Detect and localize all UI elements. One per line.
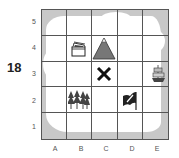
map-grid (41, 9, 169, 140)
cell-e1 (143, 113, 168, 139)
cell-c1 (92, 113, 117, 139)
cell-e3 (143, 62, 168, 88)
cell-c3 (92, 62, 117, 88)
cell-b1 (67, 113, 92, 139)
cell-b5 (67, 10, 92, 36)
cell-b3 (67, 62, 92, 88)
row-label-5: 5 (31, 18, 37, 25)
col-label-d: D (127, 145, 137, 152)
row-label-1: 1 (31, 123, 37, 130)
col-label-c: C (101, 145, 111, 152)
cell-e4 (143, 36, 168, 62)
mountain-icon (92, 36, 116, 60)
cell-d4 (118, 36, 143, 62)
row-label-4: 4 (31, 44, 37, 51)
treasure-chest-icon (70, 40, 88, 57)
cell-c2 (92, 87, 117, 113)
row-label-3: 3 (31, 70, 37, 77)
cell-a2 (42, 87, 67, 113)
cell-a4 (42, 36, 67, 62)
cell-b2 (67, 87, 92, 113)
cell-d5 (118, 10, 143, 36)
col-label-b: B (76, 145, 86, 152)
flag-icon (121, 90, 139, 110)
cell-e5 (143, 10, 168, 36)
cell-e2 (143, 87, 168, 113)
cell-a3 (42, 62, 67, 88)
cell-b4 (67, 36, 92, 62)
x-mark-icon (96, 66, 112, 82)
problem-number: 18 (7, 60, 21, 75)
cell-a1 (42, 113, 67, 139)
ship-icon (152, 64, 166, 84)
cell-d3 (118, 62, 143, 88)
cell-c5 (92, 10, 117, 36)
cell-a5 (42, 10, 67, 36)
cell-c4 (92, 36, 117, 62)
col-label-e: E (152, 145, 162, 152)
cell-d2 (118, 87, 143, 113)
island-map (41, 9, 169, 140)
forest-icon (68, 90, 90, 110)
col-label-a: A (50, 145, 60, 152)
row-label-2: 2 (31, 97, 37, 104)
cell-d1 (118, 113, 143, 139)
